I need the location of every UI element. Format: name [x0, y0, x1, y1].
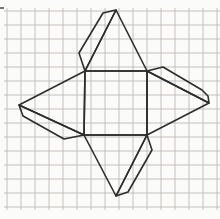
net-flap-top: [79, 10, 116, 71]
net-triangle-bottom: [84, 135, 147, 196]
net-outline: [19, 10, 209, 196]
grid-lines: [4, 8, 220, 210]
net-triangle-top: [85, 10, 147, 71]
square-pyramid-net-diagram: [0, 0, 220, 219]
net-flap-right: [147, 67, 209, 103]
scanned-figure-page: [0, 0, 220, 219]
net-flap-left: [19, 105, 84, 139]
